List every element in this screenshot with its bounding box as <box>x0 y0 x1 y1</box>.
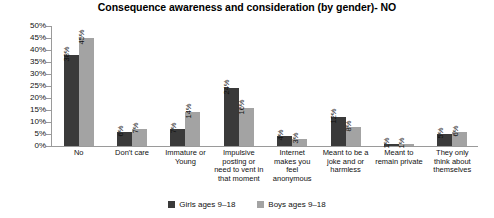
legend-swatch-icon <box>257 201 264 208</box>
bar: 6% <box>117 132 132 146</box>
bar-group-bars: 1%1% <box>372 26 425 146</box>
bar-group-bars: 24%16% <box>212 26 265 146</box>
legend-item[interactable]: Girls ages 9–18 <box>168 200 235 209</box>
y-axis-tick <box>46 98 51 99</box>
legend-label: Boys ages 9–18 <box>268 200 325 209</box>
plot-area: 38%45%No6%7%Don't care7%14%Immature or Y… <box>52 26 478 146</box>
x-axis-category-label: No <box>54 149 103 158</box>
x-axis-category-label: Don't care <box>107 149 156 158</box>
bar-group: 7%14%Immature or Young <box>159 26 212 146</box>
y-axis-tick-label: 20% <box>2 94 46 102</box>
bar-value-label: 6% <box>452 125 460 136</box>
y-axis-tick <box>46 122 51 123</box>
y-axis-tick-label: 25% <box>2 82 46 90</box>
bar-group: 12%8%Meant to be a joke and or harmless <box>319 26 372 146</box>
bar-value-label: 6% <box>117 125 125 136</box>
bar: 7% <box>170 129 185 146</box>
bar-group: 38%45%No <box>52 26 105 146</box>
bar: 3% <box>292 139 307 146</box>
bar-value-label: 8% <box>345 120 353 131</box>
bar: 45% <box>79 38 94 146</box>
x-axis-category-label: Meant to remain private <box>374 149 423 166</box>
bar-group: 4%3%Internet makes you feel anonymous <box>266 26 319 146</box>
bar-value-label: 45% <box>78 29 86 44</box>
y-axis-tick-label: 40% <box>2 46 46 54</box>
bar: 6% <box>452 132 467 146</box>
bar: 38% <box>64 55 79 146</box>
y-axis-tick-label: 0% <box>2 142 46 150</box>
bar-value-label: 16% <box>238 99 246 114</box>
bar-value-label: 14% <box>185 104 193 119</box>
y-axis-tick <box>46 110 51 111</box>
bar-group-bars: 7%14% <box>159 26 212 146</box>
bar: 7% <box>132 129 147 146</box>
bar: 16% <box>239 108 254 146</box>
bar-group-bars: 12%8% <box>319 26 372 146</box>
legend-swatch-icon <box>168 201 175 208</box>
bar-value-label: 5% <box>437 128 445 139</box>
y-axis-tick-label: 50% <box>2 22 46 30</box>
legend-item[interactable]: Boys ages 9–18 <box>257 200 325 209</box>
bar-group-bars: 6%7% <box>105 26 158 146</box>
bar-value-label: 12% <box>330 109 338 124</box>
y-axis-tick <box>46 134 51 135</box>
bar-value-label: 7% <box>132 123 140 134</box>
y-axis-tick-label: 30% <box>2 70 46 78</box>
y-axis-tick-label: 45% <box>2 34 46 42</box>
bar-value-label: 4% <box>277 130 285 141</box>
y-axis-tick <box>46 86 51 87</box>
y-axis-tick <box>46 50 51 51</box>
bar-group-bars: 5%6% <box>426 26 479 146</box>
y-axis-tick <box>46 38 51 39</box>
x-axis-category-label: Immature or Young <box>161 149 210 166</box>
y-axis-tick-label: 15% <box>2 106 46 114</box>
chart-legend: Girls ages 9–18Boys ages 9–18 <box>0 200 494 209</box>
bar-value-label: 1% <box>383 137 391 148</box>
bar: 4% <box>277 136 292 146</box>
bar: 8% <box>346 127 361 146</box>
bar-group: 24%16%Impulsive posting or need to vent … <box>212 26 265 146</box>
bar-group: 5%6%They only think about themselves <box>426 26 479 146</box>
y-axis-tick <box>46 62 51 63</box>
bar-group: 1%1%Meant to remain private <box>372 26 425 146</box>
bar: 14% <box>185 112 200 146</box>
y-axis-tick <box>46 26 51 27</box>
x-axis-line <box>51 146 478 147</box>
bar-value-label: 1% <box>398 137 406 148</box>
y-axis-tick-label: 5% <box>2 130 46 138</box>
y-axis-tick-label: 10% <box>2 118 46 126</box>
y-axis-tick <box>46 74 51 75</box>
x-axis-category-label: They only think about themselves <box>428 149 477 175</box>
y-axis-tick <box>46 146 51 147</box>
bar-value-label: 24% <box>223 80 231 95</box>
bar-value-label: 7% <box>170 123 178 134</box>
chart-title: Consequence awareness and consideration … <box>0 1 494 13</box>
bar-chart: Consequence awareness and consideration … <box>0 0 494 218</box>
legend-label: Girls ages 9–18 <box>179 200 235 209</box>
x-axis-category-label: Internet makes you feel anonymous <box>268 149 317 183</box>
bar-value-label: 3% <box>292 132 300 143</box>
bar-group: 6%7%Don't care <box>105 26 158 146</box>
x-axis-category-label: Meant to be a joke and or harmless <box>321 149 370 175</box>
bar: 1% <box>399 144 414 146</box>
bar-group-bars: 38%45% <box>52 26 105 146</box>
bar-value-label: 38% <box>63 46 71 61</box>
x-axis-category-label: Impulsive posting or need to vent in tha… <box>214 149 263 183</box>
bar-group-bars: 4%3% <box>266 26 319 146</box>
y-axis-tick-label: 35% <box>2 58 46 66</box>
bar: 24% <box>224 88 239 146</box>
